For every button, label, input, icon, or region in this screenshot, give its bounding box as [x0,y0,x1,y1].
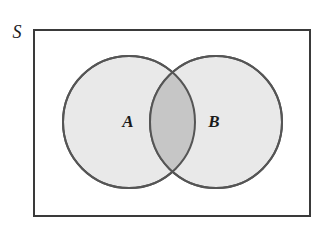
set-a-label: A [121,112,133,131]
universe-label-s: S [13,22,22,42]
set-b-label: B [207,112,219,131]
venn-diagram-figure: S A B [0,0,332,233]
venn-diagram-canvas: S A B [0,0,332,233]
